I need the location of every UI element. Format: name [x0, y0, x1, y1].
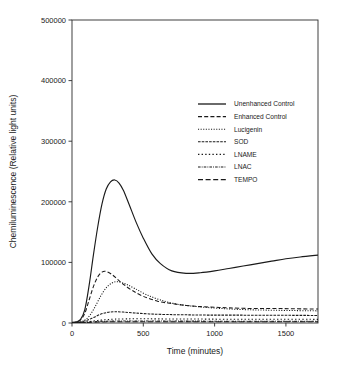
- x-tick-label: 500: [137, 329, 150, 338]
- chemiluminescence-line-chart: 0100000200000300000400000500000050010001…: [0, 0, 346, 370]
- y-tick-label: 300000: [41, 137, 66, 146]
- x-tick-label: 1000: [206, 329, 223, 338]
- chart-figure: 0100000200000300000400000500000050010001…: [0, 0, 346, 370]
- x-tick-label: 0: [70, 329, 74, 338]
- x-tick-label: 1500: [278, 329, 295, 338]
- legend-label-tempo: TEMPO: [234, 176, 257, 183]
- legend-label-lucigenin: Lucigenin: [234, 126, 263, 134]
- y-axis-label: Chemiluminescence (Relative light units): [8, 95, 18, 249]
- plot-frame: [72, 20, 318, 323]
- y-tick-label: 500000: [41, 16, 66, 25]
- series-line-lucigenin: [72, 282, 318, 323]
- y-tick-label: 0: [62, 319, 66, 328]
- y-tick-label: 100000: [41, 258, 66, 267]
- legend-label-sod: SOD: [234, 138, 249, 145]
- legend-label-lnac: LNAC: [234, 163, 252, 170]
- legend-label-enhanced-control: Enhanced Control: [234, 113, 287, 120]
- legend-label-unenhanced-control: Unenhanced Control: [234, 100, 295, 107]
- series-line-unenhanced-control: [72, 180, 318, 322]
- legend-label-lname: LNAME: [234, 151, 257, 158]
- y-tick-label: 400000: [41, 76, 66, 85]
- y-tick-label: 200000: [41, 198, 66, 207]
- x-axis-label: Time (minutes): [167, 346, 224, 356]
